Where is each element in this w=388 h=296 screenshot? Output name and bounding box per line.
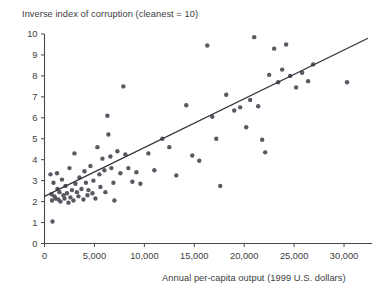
data-point xyxy=(260,138,264,142)
data-point xyxy=(184,103,188,107)
data-point xyxy=(75,190,79,194)
data-point xyxy=(205,43,209,47)
x-tick-label: 5,000 xyxy=(83,251,106,261)
data-point xyxy=(224,93,228,97)
data-point xyxy=(76,194,80,198)
data-point xyxy=(66,200,70,204)
x-tick-group: 05,00010,00015,00020,00025,00030,000 xyxy=(42,244,358,261)
data-point xyxy=(109,166,113,170)
data-point xyxy=(121,84,125,88)
data-point xyxy=(102,168,106,172)
data-point xyxy=(272,46,276,50)
data-point xyxy=(214,137,218,141)
data-point xyxy=(263,150,267,154)
data-point xyxy=(112,198,116,202)
data-point xyxy=(218,184,222,188)
data-point xyxy=(256,104,260,108)
data-point xyxy=(65,191,69,195)
data-point xyxy=(85,193,89,197)
data-point xyxy=(126,166,130,170)
y-tick-label: 3 xyxy=(32,176,37,186)
y-tick-label: 9 xyxy=(32,50,37,60)
data-point xyxy=(88,164,92,168)
y-tick-label: 7 xyxy=(32,92,37,102)
data-point xyxy=(62,196,66,200)
data-point xyxy=(95,145,99,149)
y-tick-group: 012345678910 xyxy=(27,29,44,249)
data-point xyxy=(238,105,242,109)
x-tick-label: 15,000 xyxy=(180,251,208,261)
x-axis-label: Annual per-capita output (1999 U.S. doll… xyxy=(162,273,346,283)
data-point xyxy=(79,187,83,191)
data-point xyxy=(67,166,71,170)
data-point xyxy=(152,168,156,172)
data-point xyxy=(138,182,142,186)
data-point xyxy=(167,145,171,149)
y-tick-label: 1 xyxy=(32,218,37,228)
data-point xyxy=(103,190,107,194)
data-point xyxy=(106,132,110,136)
y-tick-label: 2 xyxy=(32,197,37,207)
data-point xyxy=(345,80,349,84)
data-point xyxy=(267,73,271,77)
x-tick-label: 25,000 xyxy=(280,251,308,261)
data-point xyxy=(294,85,298,89)
x-tick-label: 20,000 xyxy=(230,251,258,261)
data-point xyxy=(108,154,112,158)
x-axis: 05,00010,00015,00020,00025,00030,000 xyxy=(42,244,372,261)
data-point xyxy=(48,172,52,176)
data-point xyxy=(98,185,102,189)
data-point xyxy=(244,125,248,129)
x-tick-label: 0 xyxy=(42,251,47,261)
data-point xyxy=(248,98,252,102)
y-tick-label: 5 xyxy=(32,134,37,144)
data-point xyxy=(50,219,54,223)
data-point xyxy=(118,171,122,175)
data-point xyxy=(100,156,104,160)
data-points-group xyxy=(48,35,349,224)
data-point xyxy=(97,172,101,176)
data-point xyxy=(57,190,61,194)
data-point xyxy=(306,79,310,83)
data-point xyxy=(115,149,119,153)
data-point xyxy=(90,191,94,195)
y-tick-label: 8 xyxy=(32,71,37,81)
scatter-plot-canvas: 012345678910 05,00010,00015,00020,00025,… xyxy=(0,0,388,296)
chart-figure: Inverse index of corruption (cleanest = … xyxy=(0,0,388,296)
data-point xyxy=(105,114,109,118)
data-point xyxy=(284,42,288,46)
y-tick-label: 0 xyxy=(32,239,37,249)
data-point xyxy=(174,173,178,177)
data-point xyxy=(146,151,150,155)
data-point xyxy=(60,177,64,181)
data-point xyxy=(190,153,194,157)
data-point xyxy=(71,198,75,202)
data-point xyxy=(93,196,97,200)
data-point xyxy=(84,181,88,185)
data-point xyxy=(91,178,95,182)
data-point xyxy=(232,108,236,112)
data-point xyxy=(134,170,138,174)
y-tick-label: 4 xyxy=(32,155,37,165)
x-tick-label: 30,000 xyxy=(330,251,358,261)
data-point xyxy=(280,67,284,71)
y-tick-label: 10 xyxy=(27,29,37,39)
data-point xyxy=(81,197,85,201)
data-point xyxy=(252,35,256,39)
data-point xyxy=(130,179,134,183)
data-point xyxy=(55,171,59,175)
regression-trendline xyxy=(45,38,369,196)
data-point xyxy=(111,181,115,185)
y-axis: 012345678910 xyxy=(27,29,44,249)
data-point xyxy=(72,151,76,155)
data-point xyxy=(51,181,55,185)
y-tick-label: 6 xyxy=(32,113,37,123)
x-tick-label: 10,000 xyxy=(130,251,158,261)
data-point xyxy=(197,159,201,163)
data-point xyxy=(58,199,62,203)
data-point xyxy=(86,188,90,192)
data-point xyxy=(70,188,74,192)
data-point xyxy=(82,169,86,173)
